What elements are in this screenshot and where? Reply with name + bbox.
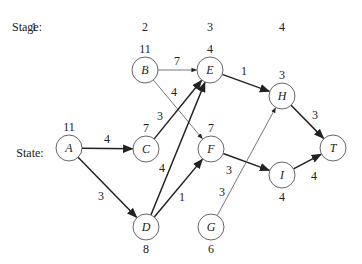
node-value-c: 7 xyxy=(143,122,149,134)
node-letter-e: E xyxy=(206,64,213,76)
node-letter-d: D xyxy=(142,221,151,233)
edge-weight-e-h: 1 xyxy=(241,65,247,77)
edge-weight-a-c: 4 xyxy=(104,133,110,145)
edge-weight-d-e: 4 xyxy=(159,162,165,174)
node-value-f: 7 xyxy=(208,122,214,134)
edge-weight-g-h: 3 xyxy=(219,186,225,198)
node-letter-i: I xyxy=(280,169,284,181)
edge-weight-a-d: 3 xyxy=(98,190,104,202)
edge-weight-b-e: 7 xyxy=(174,55,180,67)
edge-weight-d-f: 1 xyxy=(179,191,185,203)
node-letter-g: G xyxy=(207,221,216,233)
stage-number: 2 xyxy=(142,21,148,33)
node-value-d: 8 xyxy=(143,243,149,255)
node-letter-b: B xyxy=(141,64,148,76)
stage-number: 1 xyxy=(31,21,37,33)
edge-weight-f-i: 3 xyxy=(226,164,232,176)
stage-number: 3 xyxy=(207,21,213,33)
edge-weight-h-t: 3 xyxy=(312,109,318,121)
edge-weight-c-e: 3 xyxy=(157,110,163,122)
edge-a-d xyxy=(78,157,137,217)
node-value-e: 4 xyxy=(207,43,213,55)
edge-weight-i-t: 4 xyxy=(311,170,317,182)
edge-g-h xyxy=(217,108,275,216)
edge-i-t xyxy=(293,154,321,169)
node-value-g: 6 xyxy=(208,243,214,255)
edge-h-t xyxy=(291,105,323,138)
edge-a-c xyxy=(82,148,133,149)
node-value-h: 3 xyxy=(279,69,285,81)
node-letter-t: T xyxy=(330,142,337,154)
stage-number: 4 xyxy=(279,21,285,33)
node-value-a: 11 xyxy=(63,121,75,133)
node-letter-c: C xyxy=(142,143,150,155)
stage-row-label: Stage: xyxy=(12,21,42,33)
node-letter-h: H xyxy=(278,90,287,102)
node-letter-a: A xyxy=(65,142,72,154)
node-letter-f: F xyxy=(207,143,214,155)
edge-weight-b-f: 4 xyxy=(171,86,177,98)
node-value-i: 4 xyxy=(279,191,285,203)
dp-network-diagram xyxy=(0,0,362,264)
node-value-b: 11 xyxy=(139,43,151,55)
state-row-label: State: xyxy=(16,147,43,159)
